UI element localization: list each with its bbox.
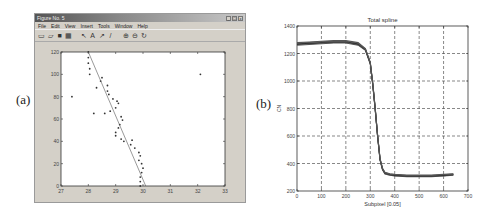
data-point [139, 185, 141, 187]
x-axis-label: Subpixel [0.05] [364, 201, 401, 207]
x-tick-label: 31 [168, 188, 174, 194]
y-tick-label: 60 [53, 116, 59, 122]
x-tick-label: 29 [113, 188, 119, 194]
data-point [120, 116, 122, 118]
x-tick-label: 700 [464, 193, 473, 199]
data-point [104, 113, 106, 115]
y-tick-label: 200 [287, 188, 296, 194]
data-point [118, 102, 120, 104]
data-point [93, 113, 95, 115]
data-point [142, 167, 144, 169]
y-tick-label: 400 [287, 161, 296, 167]
charts-canvas: 2728293031323302040608010012001002003004… [0, 0, 491, 215]
data-point [120, 138, 122, 140]
data-point [138, 152, 140, 154]
x-tick-label: 300 [366, 193, 375, 199]
chart-title: Total spline [367, 17, 398, 23]
data-point [87, 62, 89, 64]
y-tick-label: 1000 [284, 78, 295, 84]
data-point [89, 68, 91, 70]
data-point [134, 147, 136, 149]
data-point [139, 181, 141, 183]
data-point [139, 176, 141, 178]
data-point [118, 127, 120, 129]
data-point [115, 135, 117, 137]
x-tick-label: 0 [296, 193, 299, 199]
data-point [123, 140, 125, 142]
data-point [200, 73, 202, 75]
data-point [107, 90, 109, 92]
data-point [109, 110, 111, 112]
x-tick-label: 100 [317, 193, 326, 199]
data-point [116, 100, 118, 102]
y-tick-label: 80 [53, 94, 59, 100]
x-tick-label: 200 [342, 193, 351, 199]
x-tick-label: 600 [439, 193, 448, 199]
data-point [89, 73, 91, 75]
data-point [115, 107, 117, 109]
y-tick-label: 120 [51, 49, 60, 55]
data-point [107, 85, 109, 87]
x-tick-label: 400 [391, 193, 400, 199]
y-tick-label: 0 [56, 183, 59, 189]
data-point [87, 57, 89, 59]
y-tick-label: 600 [287, 133, 296, 139]
data-point [112, 98, 114, 100]
data-point [130, 144, 132, 146]
x-tick-label: 28 [86, 188, 92, 194]
y-tick-label: 800 [287, 106, 296, 112]
x-tick-label: 500 [415, 193, 424, 199]
x-tick-label: 32 [195, 188, 201, 194]
data-point [122, 119, 124, 121]
y-tick-label: 20 [53, 161, 59, 167]
data-point [96, 87, 98, 89]
data-point [138, 159, 140, 161]
data-point [141, 163, 143, 165]
x-tick-label: 33 [222, 188, 228, 194]
data-point [101, 77, 103, 79]
y-tick-label: 1200 [284, 51, 295, 57]
plot-axes-box [61, 52, 225, 186]
data-point [131, 139, 133, 141]
data-point [108, 94, 110, 96]
y-tick-label: 100 [51, 71, 60, 77]
x-tick-label: 30 [140, 188, 146, 194]
data-point [115, 132, 117, 134]
y-axis-label: CN [276, 105, 282, 113]
data-point [139, 155, 141, 157]
data-point [71, 96, 73, 98]
data-point [141, 172, 143, 174]
y-tick-label: 1400 [284, 23, 295, 29]
y-tick-label: 40 [53, 138, 59, 144]
x-tick-label: 27 [58, 188, 64, 194]
